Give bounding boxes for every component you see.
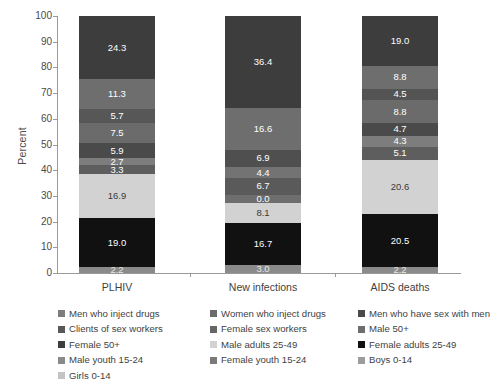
- y-axis-tick-label: 30: [26, 191, 52, 201]
- y-axis-tick-label: 100: [26, 11, 52, 21]
- y-axis-tick-label: 0: [26, 268, 52, 278]
- legend-swatch-icon: [358, 326, 365, 333]
- legend-item[interactable]: Female youth 15-24: [210, 355, 358, 365]
- legend-row: Clients of sex workersFemale sex workers…: [58, 322, 470, 338]
- chart-legend: Men who inject drugsWomen who inject dru…: [58, 306, 470, 384]
- bar-segment-value: 7.5: [79, 128, 155, 138]
- legend-item[interactable]: Women who inject drugs: [210, 309, 358, 319]
- bar-segment[interactable]: 16.7: [225, 223, 301, 265]
- bar-segment[interactable]: 5.1: [362, 147, 438, 160]
- legend-item-label: Female 50+: [69, 340, 120, 350]
- x-axis-category-label: AIDS deaths: [371, 281, 430, 293]
- bar-segment[interactable]: 7.5: [79, 123, 155, 143]
- bar-segment[interactable]: 2.2: [362, 267, 438, 273]
- bar-segment[interactable]: 36.4: [225, 16, 301, 108]
- y-axis-tick-labels: 0102030405060708090100: [26, 16, 52, 272]
- y-axis-tick-label: 60: [26, 114, 52, 124]
- legend-item[interactable]: Male youth 15-24: [58, 355, 210, 365]
- legend-item-label: Female youth 15-24: [221, 355, 306, 365]
- legend-item-label: Men who have sex with men: [369, 309, 490, 319]
- bar-segment[interactable]: 11.3: [79, 79, 155, 108]
- y-axis-tick-mark: [53, 273, 57, 274]
- y-axis-tick-mark: [53, 16, 57, 17]
- legend-item[interactable]: Men who inject drugs: [58, 309, 210, 319]
- bar-segment-value: 16.6: [225, 124, 301, 134]
- legend-item: [210, 372, 358, 379]
- x-axis-tick-mark: [190, 273, 191, 277]
- bar-segment[interactable]: 24.3: [79, 16, 155, 79]
- bar-segment[interactable]: 2.7: [79, 158, 155, 165]
- bar-segment[interactable]: 4.5: [362, 89, 438, 101]
- bar-segment[interactable]: 8.8: [362, 66, 438, 89]
- legend-item[interactable]: Male 50+: [358, 324, 470, 334]
- y-axis-tick-label: 10: [26, 242, 52, 252]
- legend-item[interactable]: Men who have sex with men: [358, 309, 470, 319]
- bar-segment[interactable]: 3.0: [225, 265, 301, 273]
- legend-swatch-icon: [210, 357, 217, 364]
- bar-segment-value: 16.7: [225, 240, 301, 250]
- bar-segment[interactable]: 19.0: [79, 218, 155, 267]
- y-axis-tick-mark: [53, 247, 57, 248]
- y-axis-tick-mark: [53, 67, 57, 68]
- bar-segment[interactable]: 16.9: [79, 174, 155, 218]
- y-axis-tick-label: 70: [26, 88, 52, 98]
- y-axis-tick-mark: [53, 93, 57, 94]
- bar-segment[interactable]: 2.2: [79, 267, 155, 273]
- y-axis-tick-mark: [53, 170, 57, 171]
- bar-segment[interactable]: 5.9: [79, 143, 155, 158]
- legend-item-label: Male 50+: [369, 324, 409, 334]
- x-axis-line: [57, 273, 461, 274]
- bar-segment[interactable]: 4.4: [225, 167, 301, 178]
- bar-segment[interactable]: 20.6: [362, 160, 438, 214]
- bar-segment-value: 4.5: [362, 90, 438, 100]
- legend-swatch-icon: [58, 357, 65, 364]
- legend-swatch-icon: [210, 310, 217, 317]
- bar-segment[interactable]: 8.8: [362, 100, 438, 123]
- bar-segment-value: 4.4: [225, 168, 301, 178]
- legend-item-label: Women who inject drugs: [221, 309, 326, 319]
- y-axis-tick-mark: [53, 42, 57, 43]
- bar-segment[interactable]: 20.5: [362, 214, 438, 267]
- bar-segment[interactable]: 4.7: [362, 123, 438, 135]
- bar-segment[interactable]: 19.0: [362, 16, 438, 66]
- bar-segment-value: 6.9: [225, 154, 301, 164]
- bar-segment-value: 8.8: [362, 107, 438, 117]
- legend-swatch-icon: [58, 341, 65, 348]
- bar-segment[interactable]: 5.7: [79, 109, 155, 124]
- legend-item: [358, 372, 470, 379]
- bar-segment-value: 2.7: [79, 158, 155, 165]
- bar-segment-value: 5.9: [79, 146, 155, 156]
- legend-item[interactable]: Clients of sex workers: [58, 324, 210, 334]
- bar-segment-value: 3.0: [225, 265, 301, 273]
- legend-swatch-icon: [358, 357, 365, 364]
- y-axis-tick-label: 50: [26, 140, 52, 150]
- bar-segment[interactable]: 6.7: [225, 178, 301, 195]
- bar-stack[interactable]: 19.08.84.58.84.74.35.120.620.52.2: [362, 16, 438, 273]
- legend-item[interactable]: Female 50+: [58, 340, 210, 350]
- legend-item[interactable]: Male adults 25-49: [210, 340, 358, 350]
- bar-segment[interactable]: 6.9: [225, 150, 301, 167]
- bar-segment-value: 8.8: [362, 72, 438, 82]
- y-axis-tick-mark: [53, 196, 57, 197]
- bar-segment[interactable]: 0.0: [225, 195, 301, 203]
- bar-segment-value: 3.3: [79, 165, 155, 174]
- legend-item[interactable]: Female adults 25-49: [358, 340, 470, 350]
- y-axis-tick-mark: [53, 145, 57, 146]
- bar-segment[interactable]: 8.1: [225, 203, 301, 223]
- legend-swatch-icon: [210, 341, 217, 348]
- legend-row: Men who inject drugsWomen who inject dru…: [58, 306, 470, 322]
- legend-item[interactable]: Boys 0-14: [358, 355, 470, 365]
- bar-segment[interactable]: 3.3: [79, 165, 155, 174]
- legend-item-label: Female sex workers: [221, 324, 307, 334]
- bar-segment[interactable]: 4.3: [362, 136, 438, 147]
- bar-stack[interactable]: 36.416.66.94.46.70.08.116.73.0: [225, 16, 301, 273]
- bar-stack[interactable]: 24.311.35.77.55.92.73.316.919.02.2: [79, 16, 155, 273]
- y-axis-tick-label: 90: [26, 37, 52, 47]
- legend-item[interactable]: Female sex workers: [210, 324, 358, 334]
- legend-item[interactable]: Girls 0-14: [58, 371, 210, 381]
- legend-swatch-icon: [58, 326, 65, 333]
- bar-segment-value: 11.3: [79, 89, 155, 99]
- bar-segment[interactable]: 16.6: [225, 108, 301, 150]
- y-axis-line: [57, 16, 58, 273]
